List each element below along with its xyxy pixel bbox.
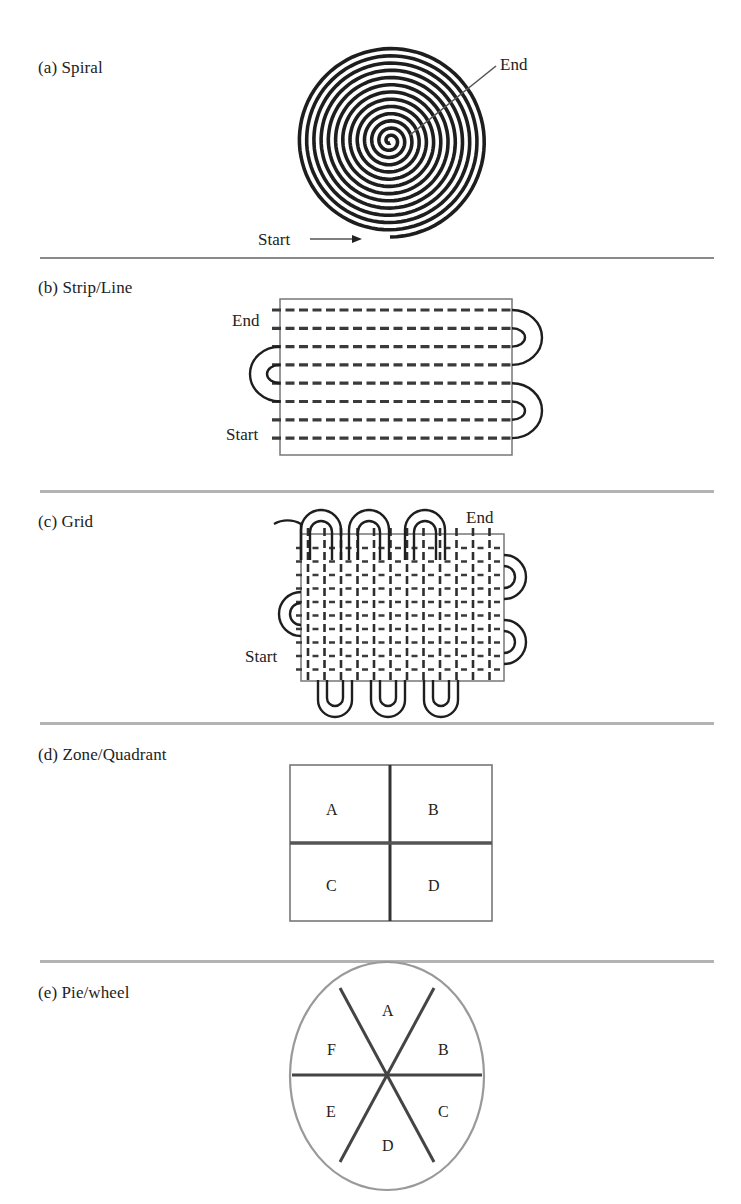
figure-canvas: End Start End Start	[0, 0, 741, 1204]
wheel-sector-e: E	[326, 1103, 336, 1120]
pie-wheel-diagram: A B C D E F	[290, 962, 484, 1190]
grid-start-label: Start	[245, 647, 277, 666]
start-arrow-icon	[352, 235, 362, 243]
spiral-start-label: Start	[258, 230, 290, 249]
wheel-sector-a: A	[382, 1002, 394, 1019]
quadrant-cell-b: B	[428, 801, 439, 818]
strip-area-box	[280, 299, 512, 455]
quadrant-cell-a: A	[326, 801, 338, 818]
quadrant-cell-d: D	[428, 877, 440, 894]
wheel-sector-d: D	[382, 1137, 394, 1154]
strip-end-label: End	[232, 311, 260, 330]
spiral-diagram: End Start	[258, 49, 528, 249]
grid-diagram: End Start	[245, 508, 526, 717]
wheel-sector-c: C	[438, 1103, 449, 1120]
grid-end-label: End	[466, 508, 494, 527]
quadrant-diagram: A B C D	[290, 765, 492, 921]
quadrant-cell-c: C	[326, 877, 337, 894]
strip-start-label: Start	[226, 425, 258, 444]
spiral-end-label: End	[500, 55, 528, 74]
strip-diagram: End Start	[226, 299, 542, 455]
wheel-sector-f: F	[327, 1041, 336, 1058]
wheel-sector-b: B	[438, 1041, 449, 1058]
